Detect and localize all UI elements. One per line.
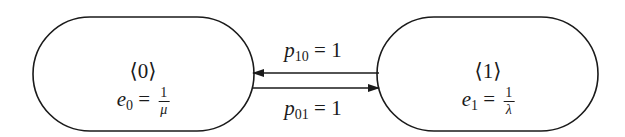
state-1-name: ⟨1⟩ [475,59,502,83]
fraction-denominator: μ [160,102,167,117]
state-1-label: ⟨1⟩ [475,61,502,82]
state-1-rate: e1 = 1 λ [462,86,515,117]
state-0-rate-var: e [117,87,126,111]
transition-label-1-to-0: p10 = 1 [284,40,341,64]
state-0-rate-sub: 0 [126,98,133,113]
transition-label-0-to-1: p01 = 1 [284,98,341,122]
transition-value: = 1 [314,96,342,120]
state-1-rate-fraction: 1 λ [503,86,514,117]
equals-sign: = [483,87,495,111]
state-1-rate-var: e [462,87,471,111]
fraction-denominator: λ [506,102,512,117]
transition-var: p [284,96,295,120]
state-0-rate-fraction: 1 μ [158,86,169,117]
state-0-rate: e0 = 1 μ [117,86,170,117]
fraction-numerator: 1 [158,86,169,102]
fraction-numerator: 1 [503,86,514,102]
state-0-label: ⟨0⟩ [130,61,157,82]
transition-value: = 1 [314,38,342,62]
state-1-rate-sub: 1 [471,98,478,113]
state-0-name: ⟨0⟩ [130,59,157,83]
transition-sub: 10 [295,49,309,64]
transition-sub: 01 [295,107,309,122]
transition-var: p [284,38,295,62]
equals-sign: = [138,87,150,111]
